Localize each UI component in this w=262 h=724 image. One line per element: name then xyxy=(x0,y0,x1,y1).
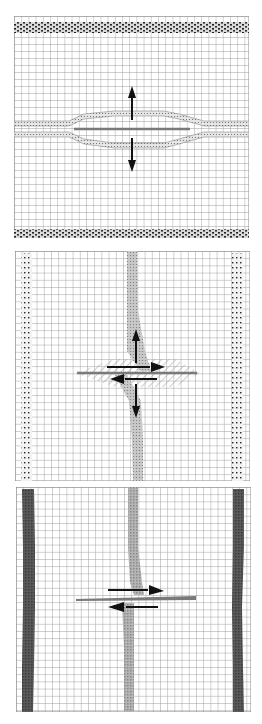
mesh-grid xyxy=(14,16,249,238)
panel-opening-mode xyxy=(14,16,249,238)
panel-shear-mode-b xyxy=(16,487,251,712)
marker-band-left xyxy=(21,253,32,481)
marker-band-left xyxy=(22,489,35,712)
marker-band-right xyxy=(232,489,244,712)
marker-band-right xyxy=(232,253,243,481)
panel-shear-mode-a xyxy=(15,251,250,481)
mesh-diagram-shear-b xyxy=(16,487,251,712)
mesh-diagram-shear-a xyxy=(15,251,250,481)
mesh-diagram-opening xyxy=(14,16,249,238)
marker-band-top xyxy=(14,22,249,33)
marker-band-bottom xyxy=(14,229,249,238)
